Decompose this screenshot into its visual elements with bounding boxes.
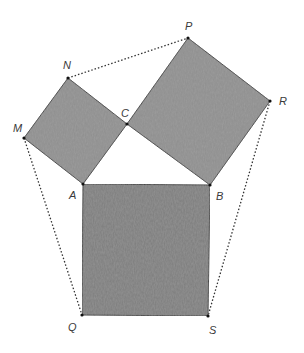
- vertex-C: [125, 122, 128, 125]
- pythagorean-squares-diagram: MNCPRABQS: [0, 0, 304, 353]
- label-C: C: [121, 107, 129, 119]
- squares-group: [24, 38, 270, 316]
- label-B: B: [216, 190, 223, 202]
- vertex-M: [22, 136, 25, 139]
- label-N: N: [63, 59, 71, 71]
- vertex-N: [66, 76, 69, 79]
- label-Q: Q: [68, 321, 77, 333]
- label-S: S: [209, 324, 217, 336]
- label-R: R: [279, 95, 287, 107]
- square-ABSQ: [82, 184, 210, 316]
- label-M: M: [13, 122, 23, 134]
- vertex-R: [268, 99, 271, 102]
- label-P: P: [185, 20, 193, 32]
- square-ACNM: [24, 78, 127, 184]
- label-A: A: [68, 189, 76, 201]
- vertex-Q: [80, 313, 83, 316]
- vertex-B: [208, 183, 211, 186]
- vertex-A: [81, 182, 84, 185]
- square-CBRP: [127, 38, 270, 185]
- vertex-P: [186, 36, 189, 39]
- vertex-S: [206, 314, 209, 317]
